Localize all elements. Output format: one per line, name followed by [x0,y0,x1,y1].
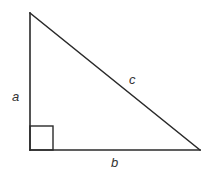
label-a: a [12,89,19,104]
label-c: c [129,72,136,87]
right-angle-marker-icon [30,126,53,150]
right-triangle-diagram: a b c [0,0,214,176]
label-b: b [111,155,118,170]
side-c-hypotenuse-line [30,13,200,150]
